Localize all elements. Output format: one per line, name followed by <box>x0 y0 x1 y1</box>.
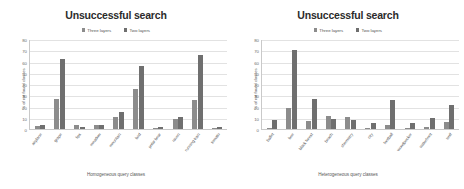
chart-panel-homogeneous: Unsuccessful search Three layers Two lay… <box>0 0 232 189</box>
x-axis-label-cell: wolf <box>439 131 459 169</box>
bar-group <box>282 40 302 129</box>
x-axis-tick-label: polar bear <box>147 132 162 149</box>
x-axis-tick-label: wolf <box>445 132 453 141</box>
y-axis-tick-label: 70 <box>245 49 259 54</box>
bar-two-layers <box>198 55 203 129</box>
y-axis-tick-label: 30 <box>13 94 27 99</box>
bar-three-layers <box>306 121 311 129</box>
y-axis-ticks: 01020304050607080 <box>13 40 27 130</box>
bar-three-layers <box>365 128 370 129</box>
bar-two-layers <box>331 119 336 129</box>
y-axis-tick-label: 50 <box>13 71 27 76</box>
x-axis-label-cell: bee <box>281 131 301 169</box>
y-axis-tick-label: 10 <box>245 116 259 121</box>
y-axis-tick-label: 10 <box>13 116 27 121</box>
bar-three-layers <box>405 128 410 129</box>
y-axis-tick-label: 80 <box>13 38 27 43</box>
y-axis-tick-label: 50 <box>245 71 259 76</box>
bar-three-layers <box>385 125 390 130</box>
bar-two-layers <box>40 125 45 130</box>
bar-group <box>420 40 440 129</box>
legend-label-two-layers: Two layers <box>361 28 381 33</box>
bar-two-layers <box>217 127 222 129</box>
dual-bar-chart-figure: Unsuccessful search Three layers Two lay… <box>0 0 464 189</box>
bar-three-layers <box>113 117 118 129</box>
bar-two-layers <box>351 120 356 129</box>
x-axis-tick-label: lips <box>75 132 83 140</box>
bar-three-layers <box>326 116 331 130</box>
x-axis-tick-label: black forest <box>298 132 314 151</box>
x-axis-title: Heterogeneous query classes <box>232 172 464 177</box>
bar-group <box>341 40 361 129</box>
bar-group <box>69 40 89 129</box>
x-axis-tick-label: city <box>366 132 374 140</box>
chart-panel-heterogeneous: Unsuccessful search Three layers Two lay… <box>232 0 464 189</box>
x-axis-label-cell: tomato <box>207 131 227 169</box>
y-axis-tick-label: 30 <box>245 94 259 99</box>
bar-three-layers <box>192 100 197 129</box>
bar-two-layers <box>292 50 297 129</box>
x-axis-label-cell: woodpecker <box>400 131 420 169</box>
bar-group <box>321 40 341 129</box>
y-axis-tick-label: 60 <box>13 60 27 65</box>
x-axis-tick-label: football <box>382 132 394 145</box>
x-axis-label-cell: beach <box>320 131 340 169</box>
x-axis-tick-label: tomato <box>210 132 221 145</box>
bar-group <box>439 40 459 129</box>
x-axis-label-cell: grape <box>49 131 69 169</box>
plot-area <box>261 40 459 130</box>
bar-group <box>188 40 208 129</box>
x-axis-label-cell: chemistry <box>340 131 360 169</box>
plot-area-wrapper: % of not found classes 01020304050607080… <box>0 40 232 138</box>
x-axis-tick-label: bee <box>287 132 295 140</box>
x-axis-labels: balletbeeblack forestbeachchemistrycityf… <box>261 131 459 169</box>
y-axis-tick-label: 20 <box>245 105 259 110</box>
x-axis-label-cell: airplane <box>29 131 49 169</box>
legend-item-two-layers: Two layers <box>356 28 382 33</box>
x-axis-labels: airplanegrapelipsmeadowmountainbirdpolar… <box>29 131 227 169</box>
bar-two-layers <box>449 105 454 129</box>
chart-legend: Three layers Two layers <box>0 26 232 34</box>
x-axis-tick-label: airplane <box>30 132 43 146</box>
x-axis-tick-label: waterfront <box>418 132 433 149</box>
x-axis-tick-label: meadow <box>89 132 102 147</box>
bar-group <box>89 40 109 129</box>
x-axis-tick-label: mountain <box>108 132 122 148</box>
bar-three-layers <box>286 108 291 129</box>
page-title: Unsuccessful search <box>232 9 464 21</box>
x-axis-tick-label: raven <box>171 132 181 143</box>
bar-three-layers <box>212 128 217 129</box>
x-axis-label-cell: ballet <box>261 131 281 169</box>
legend-swatch-two-layers <box>356 28 359 31</box>
legend-swatch-three-layers <box>82 28 85 31</box>
bar-three-layers <box>267 128 272 129</box>
bar-two-layers <box>99 125 104 130</box>
plot-area-wrapper: % of not found classes 01020304050607080… <box>232 40 464 138</box>
bar-group <box>361 40 381 129</box>
bar-group <box>207 40 227 129</box>
legend-item-three-layers: Three layers <box>314 28 343 33</box>
bar-three-layers <box>153 128 158 129</box>
y-axis-tick-label: 40 <box>245 83 259 88</box>
legend-label-two-layers: Two layers <box>129 28 149 33</box>
bar-group <box>380 40 400 129</box>
bar-two-layers <box>371 123 376 129</box>
y-axis-tick-label: 40 <box>13 83 27 88</box>
y-axis-ticks: 01020304050607080 <box>245 40 259 130</box>
bar-two-layers <box>158 127 163 129</box>
bar-three-layers <box>173 119 178 129</box>
legend-item-three-layers: Three layers <box>82 28 111 33</box>
bar-two-layers <box>390 100 395 129</box>
x-axis-tick-label: ballet <box>265 132 275 143</box>
bar-group <box>50 40 70 129</box>
y-axis-tick-label: 0 <box>245 128 259 133</box>
page-title: Unsuccessful search <box>0 9 232 21</box>
bar-group <box>129 40 149 129</box>
x-axis-label-cell: running train <box>187 131 207 169</box>
bar-two-layers <box>272 120 277 129</box>
legend-label-three-layers: Three layers <box>87 28 111 33</box>
legend-item-two-layers: Two layers <box>124 28 150 33</box>
bar-group <box>262 40 282 129</box>
bar-two-layers <box>80 127 85 129</box>
bar-group <box>301 40 321 129</box>
